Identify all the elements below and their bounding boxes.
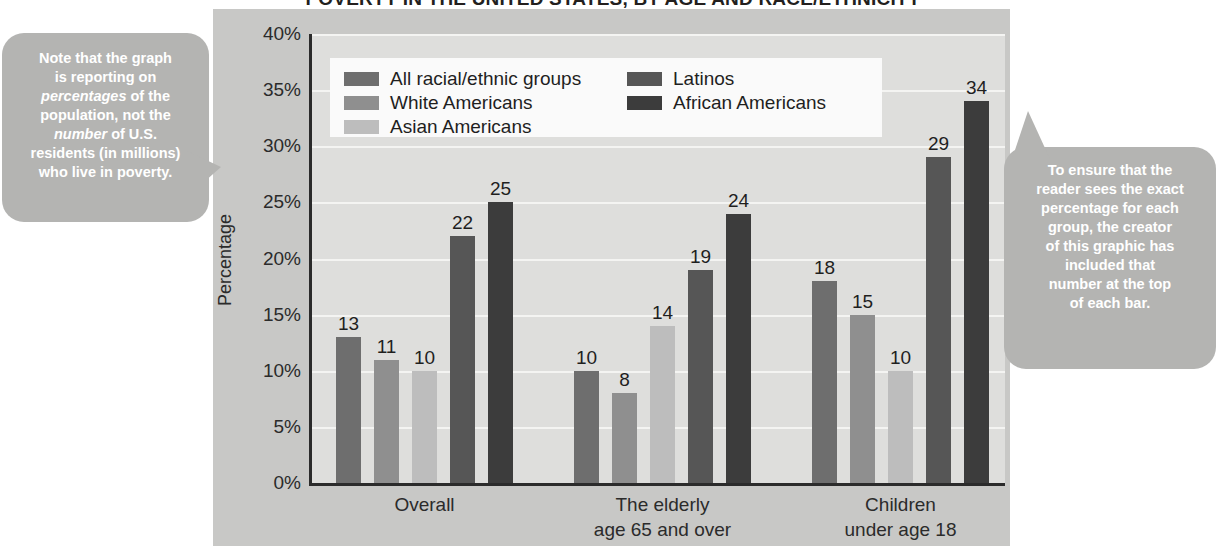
bar: 10 <box>574 371 599 483</box>
bar-value-label: 34 <box>966 77 987 99</box>
callout-text-line: population, not the <box>14 106 197 125</box>
chart-legend: All racial/ethnic groupsWhite AmericansA… <box>330 58 882 137</box>
legend-item: Asian Americans <box>344 115 581 138</box>
y-axis-title: Percentage <box>215 214 236 306</box>
bar-value-label: 15 <box>852 291 873 313</box>
callout-text-line: residents (in millions) <box>14 144 197 163</box>
legend-item-label: All racial/ethnic groups <box>390 68 581 90</box>
callout-right: To ensure that thereader sees the exactp… <box>1004 147 1216 369</box>
x-axis-group-label: The elderlyage 65 and over <box>594 492 731 542</box>
callout-right-tail <box>1012 111 1050 159</box>
y-axis-tick-label: 5% <box>231 416 301 438</box>
x-axis-group-labels: OverallThe elderlyage 65 and overChildre… <box>312 492 1005 546</box>
x-axis-group-label-line: Children <box>845 492 957 517</box>
bar-value-label: 8 <box>619 369 630 391</box>
legend-item: Latinos <box>627 67 826 90</box>
legend-column-left: All racial/ethnic groupsWhite AmericansA… <box>344 67 581 139</box>
callout-left-text: Note that the graphis reporting onpercen… <box>14 49 197 182</box>
x-axis-group-label-line: Overall <box>394 492 454 517</box>
bar: 15 <box>850 315 875 483</box>
bar: 25 <box>488 202 513 483</box>
bar-value-label: 14 <box>652 302 673 324</box>
bar-value-label: 19 <box>690 246 711 268</box>
bar-value-label: 11 <box>377 336 397 358</box>
legend-item-label: African Americans <box>673 92 826 114</box>
x-axis-group-label-line: The elderly <box>594 492 731 517</box>
chart-screenshot: POVERTY IN THE UNITED STATES, BY AGE AND… <box>0 0 1216 546</box>
bar: 10 <box>412 371 437 483</box>
callout-text-line: included that <box>1014 256 1206 275</box>
x-axis-group-label: Childrenunder age 18 <box>845 492 957 542</box>
y-axis-tick-label: 35% <box>231 79 301 101</box>
legend-item: African Americans <box>627 91 826 114</box>
bar: 19 <box>688 270 713 483</box>
callout-text-line: percentage for each <box>1014 199 1206 218</box>
callout-text-line: of each bar. <box>1014 294 1206 313</box>
bar-value-label: 10 <box>576 347 597 369</box>
bar-value-label: 29 <box>928 133 949 155</box>
legend-item: White Americans <box>344 91 581 114</box>
callout-left: Note that the graphis reporting onpercen… <box>2 33 209 222</box>
y-axis-tick-label: 20% <box>231 248 301 270</box>
bar-value-label: 24 <box>728 190 749 212</box>
callout-left-tail <box>187 151 221 197</box>
bar: 10 <box>888 371 913 483</box>
bar-value-label: 18 <box>814 257 835 279</box>
callout-text-line: of this graphic has <box>1014 237 1206 256</box>
y-axis-tick-label: 0% <box>231 472 301 494</box>
bar-value-label: 22 <box>452 212 473 234</box>
callout-text-line: Note that the graph <box>14 49 197 68</box>
callout-text-line: reader sees the exact <box>1014 180 1206 199</box>
legend-swatch-icon <box>344 96 379 110</box>
bar: 18 <box>812 281 837 483</box>
bar-value-label: 25 <box>490 178 511 200</box>
legend-column-right: LatinosAfrican Americans <box>627 67 826 115</box>
y-axis-tick-label: 25% <box>231 191 301 213</box>
bar: 13 <box>336 337 361 483</box>
legend-item-label: Asian Americans <box>390 116 532 138</box>
x-axis-group-label: Overall <box>394 492 454 517</box>
callout-right-text: To ensure that thereader sees the exactp… <box>1014 161 1206 313</box>
x-axis-group-label-line: age 65 and over <box>594 517 731 542</box>
bar: 29 <box>926 157 951 483</box>
bar: 8 <box>612 393 637 483</box>
callout-text-line: is reporting on <box>14 68 197 87</box>
y-axis-tick-label: 15% <box>231 304 301 326</box>
legend-item-label: White Americans <box>390 92 533 114</box>
callout-text-line: number of U.S. <box>14 125 197 144</box>
callout-text-line: number at the top <box>1014 275 1206 294</box>
y-axis-tick-label: 30% <box>231 135 301 157</box>
callout-text-line: percentages of the <box>14 87 197 106</box>
bar: 14 <box>650 326 675 483</box>
legend-swatch-icon <box>344 72 379 86</box>
callout-text-line: group, the creator <box>1014 218 1206 237</box>
legend-item: All racial/ethnic groups <box>344 67 581 90</box>
y-axis-tick-label: 10% <box>231 360 301 382</box>
bar: 34 <box>964 101 989 483</box>
bar: 11 <box>374 360 399 483</box>
legend-swatch-icon <box>627 72 662 86</box>
bar-value-label: 10 <box>890 347 911 369</box>
bar: 24 <box>726 214 751 483</box>
callout-text-line: who live in poverty. <box>14 163 197 182</box>
bar-value-label: 13 <box>338 313 359 335</box>
x-axis-group-label-line: under age 18 <box>845 517 957 542</box>
y-axis-tick-labels: 40%35%30%25%20%15%10%5%0% <box>231 34 301 486</box>
y-axis-tick-label: 40% <box>231 23 301 45</box>
callout-text-line: To ensure that the <box>1014 161 1206 180</box>
legend-swatch-icon <box>627 96 662 110</box>
bar-value-label: 10 <box>414 347 435 369</box>
legend-item-label: Latinos <box>673 68 734 90</box>
legend-swatch-icon <box>344 120 379 134</box>
bar: 22 <box>450 236 475 483</box>
